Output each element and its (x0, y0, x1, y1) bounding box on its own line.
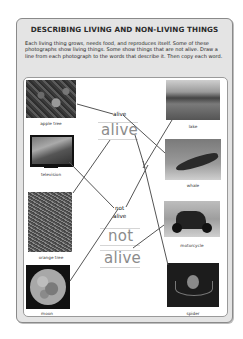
line-lake-to-not (143, 120, 172, 168)
matching-lines (0, 0, 243, 339)
line-apple-tree-to-alive (77, 104, 113, 114)
line-not-to-lake (126, 165, 148, 207)
line-spider-to-alive (143, 161, 168, 265)
line-moon-to-alive (70, 209, 118, 281)
line-television-to-not-alive (69, 162, 114, 208)
line-alive-to-whale (123, 115, 165, 153)
